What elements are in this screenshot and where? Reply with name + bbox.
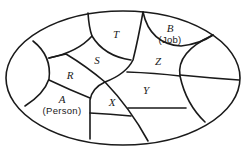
region-letter: R — [67, 70, 74, 81]
z-y-divider — [127, 72, 180, 76]
region-label-s: S — [94, 55, 100, 66]
x-arc — [90, 82, 105, 139]
region-label-a: A (Person) — [43, 94, 82, 116]
region-label-y: Y — [143, 85, 149, 96]
region-letter: S — [94, 55, 100, 66]
region-letter: T — [113, 29, 119, 40]
region-letter: B — [158, 23, 181, 34]
region-label-x: X — [109, 97, 116, 108]
t-z-divider — [105, 12, 143, 82]
region-letter: Y — [143, 85, 149, 96]
region-label-b: B (Job) — [158, 23, 181, 45]
lower-x-horizontal — [90, 113, 131, 116]
region-letter: Z — [155, 56, 161, 67]
partition-diagram: T B (Job) S Z R Y A (Person) X — [0, 0, 248, 150]
region-label-r: R — [67, 70, 74, 81]
right-horizontal — [180, 75, 239, 80]
x-y-divider — [105, 82, 148, 141]
right-arc — [180, 35, 213, 122]
upper-left-divider — [49, 13, 92, 58]
diagram-lines — [0, 0, 248, 150]
region-sublabel: (Job) — [158, 34, 181, 45]
region-label-t: T — [113, 29, 119, 40]
region-sublabel: (Person) — [43, 105, 82, 116]
region-letter: X — [109, 97, 116, 108]
region-letter: A — [43, 94, 82, 105]
region-label-z: Z — [155, 56, 161, 67]
